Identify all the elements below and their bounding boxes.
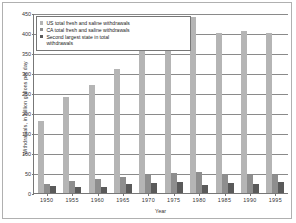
y-axis-tick (32, 194, 34, 195)
y-axis-tick-label: 100 (22, 151, 31, 157)
y-axis-tick-label: 150 (22, 131, 31, 137)
x-axis-tick (275, 193, 276, 196)
y-axis-tick-label: 300 (22, 71, 31, 77)
bar (177, 182, 183, 193)
bar (38, 121, 44, 193)
bar-group: 1985 (212, 14, 237, 193)
legend-item: CA total fresh and saline withdrawals (40, 27, 186, 33)
legend-item: Second largest state in total withdrawal… (40, 34, 186, 46)
x-axis-tick (199, 193, 200, 196)
bar (228, 183, 234, 193)
bar (216, 33, 222, 193)
y-axis-tick-label: 0 (28, 191, 31, 197)
bar (151, 183, 157, 193)
legend-label: US total fresh and saline withdrawals (46, 20, 130, 26)
bar (278, 182, 284, 193)
bar (190, 17, 196, 193)
bar (50, 186, 56, 193)
bar-chart: Withdrawals, in billion gallons per day … (0, 0, 296, 223)
legend-swatch-icon (40, 35, 43, 38)
x-axis-tick (123, 193, 124, 196)
y-axis-tick-label: 450 (22, 11, 31, 17)
x-axis-tick-label: 1955 (59, 197, 84, 203)
x-axis-tick-label: 1950 (34, 197, 59, 203)
bar (63, 97, 69, 193)
x-axis-tick-label: 1965 (110, 197, 135, 203)
x-axis-tick-label: 1980 (186, 197, 211, 203)
x-axis-title: Year (33, 208, 288, 214)
bar-group: 1990 (237, 14, 262, 193)
bar (266, 33, 272, 193)
x-axis-tick (148, 193, 149, 196)
bar (114, 69, 120, 193)
bar (101, 187, 107, 193)
y-axis-tick-label: 400 (22, 31, 31, 37)
bar (126, 184, 132, 193)
bar-group: 1995 (263, 14, 288, 193)
x-axis-tick-label: 1990 (237, 197, 262, 203)
bar (75, 187, 81, 193)
bar (139, 45, 145, 193)
legend-label: CA total fresh and saline withdrawals (46, 27, 129, 33)
chart-legend: US total fresh and saline withdrawals CA… (36, 16, 191, 51)
x-axis-tick (225, 193, 226, 196)
x-axis-tick (47, 193, 48, 196)
bar (241, 31, 247, 193)
x-axis-tick (174, 193, 175, 196)
legend-swatch-icon (40, 28, 43, 31)
legend-swatch-icon (40, 21, 43, 24)
x-axis-tick-label: 1995 (263, 197, 288, 203)
x-axis-tick-label: 1960 (85, 197, 110, 203)
legend-label: Second largest state in total withdrawal… (46, 34, 109, 46)
bar (253, 184, 259, 193)
x-axis-tick (250, 193, 251, 196)
legend-item: US total fresh and saline withdrawals (40, 20, 186, 26)
x-axis-tick (98, 193, 99, 196)
x-axis-tick (72, 193, 73, 196)
x-axis-tick-label: 1970 (136, 197, 161, 203)
x-axis-tick-label: 1975 (161, 197, 186, 203)
y-axis-tick-label: 350 (22, 51, 31, 57)
bar (202, 185, 208, 193)
x-axis-tick-label: 1985 (212, 197, 237, 203)
bar (89, 85, 95, 193)
y-axis-tick-label: 50 (25, 171, 31, 177)
y-axis-tick-label: 200 (22, 111, 31, 117)
y-axis-tick-label: 250 (22, 91, 31, 97)
